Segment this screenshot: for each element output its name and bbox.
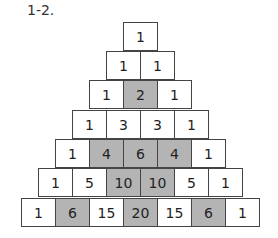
triangle-cell: 1 — [157, 80, 192, 109]
triangle-cell: 1 — [89, 80, 124, 109]
triangle-cell: 1 — [21, 198, 56, 227]
triangle-cell: 1 — [140, 51, 175, 80]
shaded-cell: 2 — [123, 80, 158, 109]
triangle-cell: 15 — [89, 198, 124, 227]
triangle-cell: 1 — [225, 198, 260, 227]
triangle-cell: 1 — [106, 51, 141, 80]
triangle-cell: 1 — [208, 168, 243, 197]
triangle-cell: 1 — [191, 139, 226, 168]
pascal-triangle: 111121133114641151010511615201561 — [0, 0, 278, 238]
triangle-cell: 3 — [140, 110, 175, 139]
triangle-cell: 1 — [55, 139, 90, 168]
shaded-cell: 6 — [55, 198, 90, 227]
shaded-cell: 10 — [106, 168, 141, 197]
triangle-cell: 3 — [106, 110, 141, 139]
shaded-cell: 6 — [123, 139, 158, 168]
triangle-row: 14641 — [55, 139, 226, 168]
shaded-cell: 4 — [89, 139, 124, 168]
triangle-cell: 5 — [72, 168, 107, 197]
triangle-cell: 1 — [123, 22, 158, 51]
triangle-cell: 5 — [174, 168, 209, 197]
triangle-row: 1615201561 — [21, 198, 260, 227]
triangle-cell: 1 — [174, 110, 209, 139]
triangle-cell: 1 — [72, 110, 107, 139]
shaded-cell: 20 — [123, 198, 158, 227]
triangle-row: 1 — [123, 22, 158, 51]
triangle-row: 15101051 — [38, 168, 243, 197]
shaded-cell: 6 — [191, 198, 226, 227]
triangle-cell: 1 — [38, 168, 73, 197]
shaded-cell: 10 — [140, 168, 175, 197]
shaded-cell: 4 — [157, 139, 192, 168]
triangle-row: 121 — [89, 80, 192, 109]
triangle-row: 1331 — [72, 110, 209, 139]
triangle-row: 11 — [106, 51, 175, 80]
triangle-cell: 15 — [157, 198, 192, 227]
